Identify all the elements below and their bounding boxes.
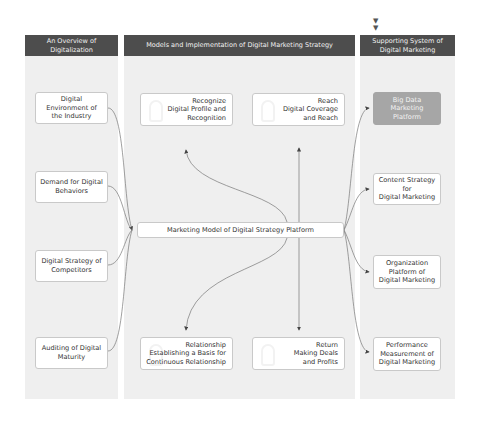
- person-watermark-icon: [261, 100, 275, 122]
- support-box-content-strategy: Content Strategy for Digital Marketing: [373, 173, 441, 205]
- input-box-digital-environment: Digital Environment of the Industry: [35, 92, 108, 124]
- strategy-box-recognize: Recognize Digital Profile and Recognitio…: [140, 93, 233, 126]
- person-watermark-icon: [149, 100, 163, 122]
- strategy-box-reach: Reach Digital Coverage and Reach: [252, 93, 345, 126]
- strategy-box-return: Return Making Deals and Profits: [252, 337, 345, 370]
- input-box-auditing-digital-maturity: Auditing of Digital Maturity: [35, 337, 108, 369]
- support-box-organization-platform: Organization Platform of Digital Marketi…: [373, 255, 441, 289]
- input-box-digital-strategy-competitors: Digital Strategy of Competitors: [35, 250, 108, 282]
- center-box-marketing-model: Marketing Model of Digital Strategy Plat…: [137, 222, 344, 238]
- support-box-big-data-platform: Big Data Marketing Platform: [373, 92, 441, 125]
- person-watermark-icon: [261, 344, 275, 366]
- strategy-box-relationship: Relationship Establishing a Basis for Co…: [140, 337, 233, 370]
- input-box-demand-digital-behaviors: Demand for Digital Behaviors: [35, 171, 108, 203]
- support-box-performance-measurement: Performance Measurement of Digital Marke…: [373, 337, 441, 371]
